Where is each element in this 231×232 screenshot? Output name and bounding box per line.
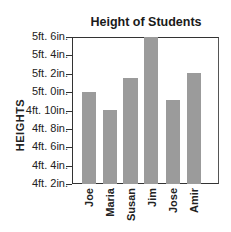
y-tick-label: 4ft. 10in. [26, 104, 68, 116]
y-tick-label: 4ft. 8in. [32, 122, 68, 134]
y-axis-label: HEIGHTS [14, 99, 26, 151]
x-label-jose: Jose [167, 188, 179, 222]
y-tick-label: 4ft. 6in. [32, 141, 68, 153]
y-tick-label: 4ft. 4in. [32, 159, 68, 171]
y-tick-label: 4ft. 2in. [32, 177, 68, 189]
bar-amir [187, 73, 201, 184]
bar-susan [123, 78, 138, 184]
chart-title: Height of Students [72, 15, 220, 29]
bar-jose [166, 100, 180, 184]
x-label-maria: Maria [104, 188, 116, 222]
y-tick-label: 5ft. 2in. [32, 67, 68, 79]
x-label-amir: Amir [188, 188, 200, 222]
bar-maria [103, 110, 117, 184]
x-label-jim: Jim [146, 188, 158, 222]
bar-joe [82, 92, 96, 184]
x-label-joe: Joe [83, 188, 95, 222]
bar-jim [144, 37, 158, 184]
y-tick-label: 5ft. 6in. [32, 30, 68, 42]
y-tick-label: 5ft. 0in. [32, 85, 68, 97]
x-label-susan: Susan [125, 188, 137, 222]
y-tick-label: 5ft. 4in. [32, 49, 68, 61]
